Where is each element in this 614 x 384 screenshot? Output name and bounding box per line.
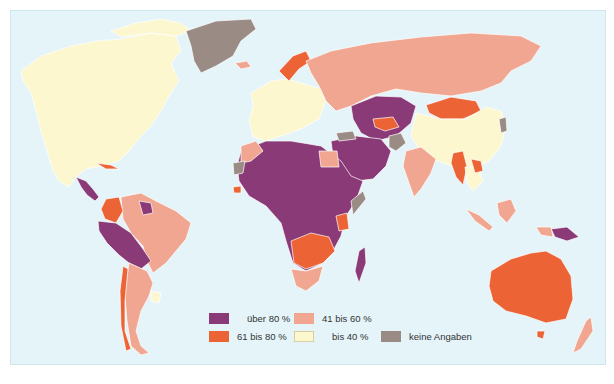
legend-item-over-80: über 80 % [209, 311, 290, 325]
region-papua [551, 227, 579, 241]
legend-label: bis 40 % [332, 331, 368, 342]
legend-label: 61 bis 80 % [237, 331, 287, 342]
region-myanmar [451, 151, 467, 185]
legend-swatch-61-80 [209, 331, 229, 342]
region-western-sahara [233, 161, 245, 175]
map-legend: über 80 % 41 bis 60 % 61 bis 80 % bis 40… [209, 307, 479, 365]
region-tasmania [537, 331, 545, 339]
region-norway [279, 51, 311, 81]
region-sumatra [466, 209, 493, 231]
region-new-guinea-west [536, 227, 553, 237]
legend-swatch-no-data [381, 331, 401, 342]
region-new-zealand [573, 317, 593, 353]
region-colombia [101, 197, 123, 223]
legend-swatch-over-80 [209, 313, 229, 324]
region-australia [489, 251, 573, 323]
region-madagascar [355, 247, 366, 283]
legend-item-61-80: 61 bis 80 % [209, 329, 287, 343]
legend-swatch-to-40 [294, 331, 314, 342]
legend-swatch-41-60 [294, 313, 314, 324]
region-iceland [235, 61, 251, 69]
region-afghanistan [389, 133, 406, 151]
legend-label: 41 bis 60 % [322, 313, 372, 324]
region-borneo [497, 199, 516, 223]
legend-item-to-40: bis 40 % [294, 329, 368, 343]
region-southern-africa [291, 233, 335, 269]
legend-label: keine Angaben [409, 331, 472, 342]
legend-item-41-60: 41 bis 60 % [294, 311, 372, 325]
map-frame: über 80 % 41 bis 60 % 61 bis 80 % bis 40… [10, 10, 606, 365]
region-senegal [233, 186, 241, 193]
legend-item-no-data: keine Angaben [381, 329, 472, 343]
region-argentina [125, 263, 153, 355]
region-russia [306, 33, 541, 111]
region-central-america [76, 177, 99, 201]
region-turkey [336, 131, 356, 141]
legend-label: über 80 % [247, 313, 290, 324]
region-egypt [319, 151, 339, 167]
region-uruguay [151, 291, 161, 303]
region-europe [249, 79, 326, 141]
